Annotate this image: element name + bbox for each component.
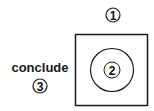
marker-3-number: 3	[37, 80, 44, 94]
conclude-label: conclude	[11, 60, 68, 75]
marker-1: 1	[106, 8, 120, 23]
marker-3: 3	[33, 79, 47, 94]
diagram-canvas: 1 2 conclude 3	[0, 0, 154, 111]
marker-1-number: 1	[110, 9, 117, 23]
marker-2-number: 2	[109, 64, 116, 78]
marker-2: 2	[104, 62, 120, 78]
